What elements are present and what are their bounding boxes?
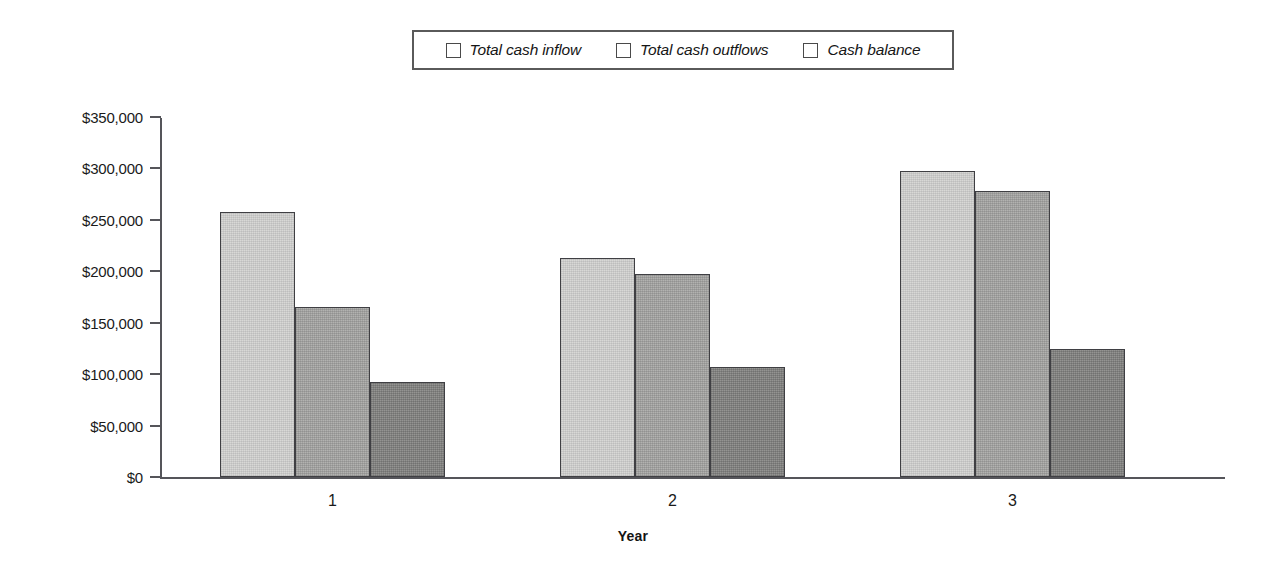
bar-chart-plot: $0$50,000$100,000$150,000$200,000$250,00… <box>0 0 1266 578</box>
y-axis-tick-label: $300,000 <box>43 160 143 177</box>
x-axis-tick-label-3: 3 <box>953 492 1073 510</box>
bar-group-year-3 <box>900 117 1125 477</box>
x-axis-title: Year <box>0 528 1266 544</box>
bar-group-year-1 <box>220 117 445 477</box>
y-axis-tick-label: $100,000 <box>43 366 143 383</box>
bar-1-series-2[interactable] <box>370 382 445 477</box>
x-axis-tick-label-1: 1 <box>273 492 393 510</box>
y-axis-tick-label: $350,000 <box>43 109 143 126</box>
bar-3-series-1[interactable] <box>975 191 1050 477</box>
y-axis-tick-label: $0 <box>43 469 143 486</box>
bar-2-series-0[interactable] <box>560 258 635 477</box>
bar-1-series-0[interactable] <box>220 212 295 477</box>
y-axis-tick-label: $250,000 <box>43 211 143 228</box>
y-axis-tick-label: $150,000 <box>43 314 143 331</box>
x-axis-line <box>160 477 1225 479</box>
bar-2-series-2[interactable] <box>710 367 785 477</box>
y-axis-tick-label: $200,000 <box>43 263 143 280</box>
bar-groups-layer <box>160 117 1225 477</box>
bar-2-series-1[interactable] <box>635 274 710 477</box>
bar-group-year-2 <box>560 117 785 477</box>
y-axis-tick-label: $50,000 <box>43 417 143 434</box>
bar-1-series-1[interactable] <box>295 307 370 477</box>
bar-3-series-2[interactable] <box>1050 349 1125 477</box>
bar-3-series-0[interactable] <box>900 171 975 478</box>
x-axis-tick-label-2: 2 <box>613 492 733 510</box>
